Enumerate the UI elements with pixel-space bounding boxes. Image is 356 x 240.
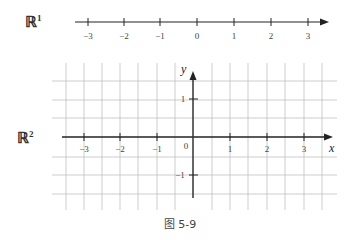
x-tick-label: −2	[115, 144, 125, 154]
origin-label: 0	[184, 141, 189, 151]
x-tick-label: −1	[152, 144, 162, 154]
r1-tick-label: 0	[195, 31, 200, 41]
x-axis-name: x	[328, 141, 335, 155]
x-tick-label: 2	[265, 144, 270, 154]
figure-caption: 图 5-9	[164, 218, 196, 231]
r1-arrow-icon	[320, 19, 329, 26]
r1-number-line: ℝ1 −3 −2 −1 0 1 2 3	[25, 13, 329, 41]
r1-tick-label: 3	[306, 31, 311, 41]
x-tick-label: 1	[228, 144, 233, 154]
r1-tick-label: −3	[83, 31, 93, 41]
x-tick-label: 3	[302, 144, 307, 154]
x-axis-arrow-icon	[324, 134, 333, 141]
figure-5-9: ℝ1 −3 −2 −1 0 1 2 3 ℝ2	[0, 0, 356, 240]
r1-label: ℝ1	[25, 13, 42, 30]
x-tick-label: −3	[79, 144, 89, 154]
y-tick-label: −1	[175, 170, 185, 180]
r1-tick-label: −1	[155, 31, 165, 41]
r2-label: ℝ2	[17, 129, 34, 146]
r1-tick-label: −2	[119, 31, 129, 41]
y-axis-arrow-icon	[190, 71, 197, 80]
y-tick-label: 1	[181, 94, 186, 104]
r1-tick-label: 2	[269, 31, 274, 41]
y-axis-name: y	[180, 62, 187, 76]
r2-plane: ℝ2	[17, 62, 337, 210]
r1-tick-label: 1	[232, 31, 237, 41]
